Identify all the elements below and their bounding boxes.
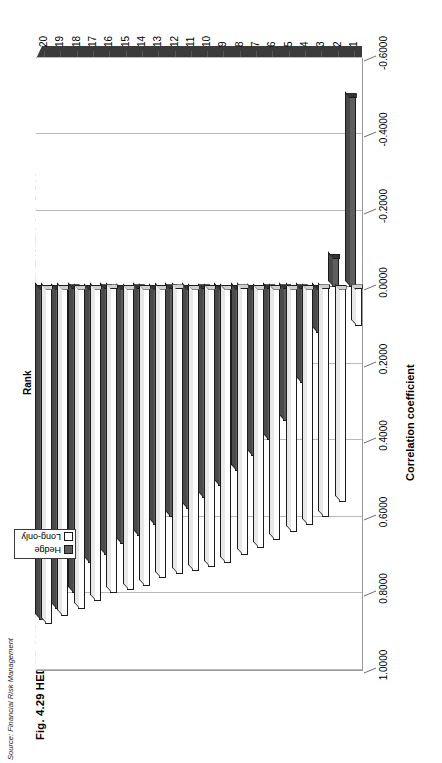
value-tick-leader	[364, 132, 376, 138]
bar-top-face	[155, 283, 160, 577]
bar-top-face	[220, 283, 225, 562]
legend-item-long-only[interactable]: Long-only	[11, 532, 73, 542]
bar-long-only-rank-6	[273, 288, 280, 540]
value-tick-label: 0.2000	[378, 344, 389, 375]
rank-tick-mark	[142, 51, 143, 57]
value-tick-leader	[364, 515, 376, 521]
gridline	[36, 134, 362, 135]
rank-tick-label: 5	[283, 41, 294, 47]
rank-tick-mark	[126, 51, 127, 57]
value-tick-label: 1.0000	[378, 650, 389, 681]
bar-long-only-rank-9	[224, 288, 231, 563]
bar-long-only-rank-7	[257, 288, 264, 548]
rank-tick-mark	[272, 51, 273, 57]
bar-top-face	[237, 283, 242, 554]
rank-tick-mark	[60, 51, 61, 57]
gridline	[36, 669, 362, 670]
rank-tick-label: 10	[201, 36, 212, 47]
bar-long-only-rank-8	[241, 288, 248, 556]
bar-top-face	[123, 283, 128, 589]
bar-long-only-rank-4	[306, 288, 313, 525]
rank-tick-mark	[256, 51, 257, 57]
rank-tick-label: 14	[136, 36, 147, 47]
gridline	[36, 593, 362, 594]
value-axis-label: Correlation coefficient	[404, 364, 416, 481]
rank-tick-mark	[44, 51, 45, 57]
value-tick-leader	[364, 668, 376, 674]
value-tick-label: -0.2000	[378, 189, 389, 223]
bar-top-face	[188, 283, 193, 570]
value-tick-leader	[364, 285, 376, 291]
bar-top-face	[41, 283, 46, 623]
bar-hedge-rank-2	[332, 257, 339, 288]
rank-tick-mark	[223, 51, 224, 57]
bar-top-face	[318, 283, 323, 516]
bar-long-only-rank-10	[208, 288, 215, 567]
bar-top-face	[139, 283, 144, 585]
bar-top-face	[345, 92, 350, 287]
rank-tick-label: 13	[152, 36, 163, 47]
rank-tick-label: 19	[54, 36, 65, 47]
bar-top-face	[204, 283, 209, 566]
value-tick-leader	[364, 591, 376, 597]
bar-long-only-rank-1	[355, 288, 362, 326]
chart-canvas: 1.00000.80000.60000.40000.20000.0000-0.2…	[0, 0, 442, 763]
rank-tick-label: 6	[266, 41, 277, 47]
bar-long-only-rank-13	[159, 288, 166, 579]
rank-tick-label: 12	[169, 36, 180, 47]
legend-label: Long-only	[21, 532, 61, 542]
rank-tick-label: 17	[87, 36, 98, 47]
legend-item-hedge[interactable]: Hedge	[11, 545, 73, 555]
bar-top-face	[351, 283, 356, 325]
category-axis-label: Rank	[22, 371, 33, 395]
rank-tick-label: 3	[315, 41, 326, 47]
rank-tick-mark	[191, 51, 192, 57]
bar-top-face	[90, 283, 95, 600]
value-tick-label: 0.8000	[378, 573, 389, 604]
rank-tick-mark	[240, 51, 241, 57]
legend-swatch-icon	[64, 546, 73, 555]
bar-long-only-rank-16	[110, 288, 117, 594]
rank-tick-mark	[93, 51, 94, 57]
bar-top-face	[269, 283, 274, 539]
rank-tick-label: 20	[38, 36, 49, 47]
bar-long-only-rank-20	[45, 288, 52, 625]
bar-top-face	[106, 283, 111, 593]
bar-long-only-rank-15	[127, 288, 134, 590]
bar-top-face	[57, 283, 62, 615]
value-tick-label: -0.4000	[378, 113, 389, 147]
bar-top-face	[253, 283, 258, 547]
figure-page: Fig. 4.29 HEDGE AND LONG-ONLY FUNDS – RA…	[0, 0, 442, 763]
value-tick-leader	[364, 56, 376, 62]
value-tick-label: 0.4000	[378, 420, 389, 451]
bar-long-only-rank-5	[290, 288, 297, 533]
bar-top-face	[172, 283, 177, 573]
legend: HedgeLong-only	[14, 529, 76, 559]
bar-long-only-rank-12	[176, 288, 183, 575]
value-tick-leader	[364, 362, 376, 368]
rank-tick-label: 11	[185, 37, 196, 47]
rank-tick-mark	[354, 51, 355, 57]
rank-tick-mark	[175, 51, 176, 57]
rank-tick-mark	[305, 51, 306, 57]
value-tick-label: 0.6000	[378, 497, 389, 528]
gridline	[36, 57, 362, 58]
bar-top-face	[335, 283, 340, 501]
rank-tick-label: 8	[234, 41, 245, 47]
bar-long-only-rank-18	[78, 288, 85, 609]
rank-tick-label: 9	[217, 41, 228, 47]
bar-long-only-rank-2	[339, 288, 346, 502]
rank-tick-mark	[158, 51, 159, 57]
rank-tick-mark	[321, 51, 322, 57]
bar-top-face	[302, 283, 307, 524]
rank-tick-mark	[77, 51, 78, 57]
value-tick-label: -0.6000	[378, 36, 389, 70]
rank-tick-label: 2	[332, 41, 343, 47]
legend-label: Hedge	[34, 545, 61, 555]
bar-long-only-rank-11	[192, 288, 199, 571]
rank-tick-label: 4	[299, 41, 310, 47]
bar-long-only-rank-14	[143, 288, 150, 586]
legend-swatch-icon	[64, 533, 73, 542]
value-tick-label: 0.0000	[378, 267, 389, 298]
bar-hedge-rank-1	[349, 96, 356, 287]
